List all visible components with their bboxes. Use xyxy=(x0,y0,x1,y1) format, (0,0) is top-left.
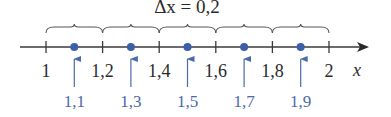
midpoint-dot xyxy=(297,43,305,51)
brace xyxy=(103,24,160,33)
midpoint-dot xyxy=(240,43,248,51)
axis-variable-label: x xyxy=(352,60,361,80)
midpoint-label: 1,9 xyxy=(290,92,311,111)
tick-label: 2 xyxy=(325,61,334,81)
midpoint-label: 1,5 xyxy=(177,92,198,111)
midpoint-label: 1,7 xyxy=(233,92,255,111)
delta-x-title: Δx = 0,2 xyxy=(154,0,220,17)
interval-braces xyxy=(46,24,329,33)
midpoint-dot xyxy=(127,43,135,51)
tick-label: 1,4 xyxy=(148,61,171,81)
midpoint-label: 1,3 xyxy=(120,92,141,111)
midpoint-dot xyxy=(70,43,78,51)
brace xyxy=(159,24,216,33)
tick-label: 1,2 xyxy=(91,61,114,81)
midpoint-dot xyxy=(184,43,192,51)
brace xyxy=(46,24,103,33)
midpoint-label: 1,1 xyxy=(64,92,85,111)
brace xyxy=(216,24,273,33)
tick-label: 1,8 xyxy=(261,61,284,81)
tick-label: 1,6 xyxy=(205,61,228,81)
tick-label: 1 xyxy=(42,61,51,81)
number-line-diagram: Δx = 0,2 11,21,41,61,82 1,11,31,51,71,9 … xyxy=(0,0,391,117)
brace xyxy=(272,24,329,33)
